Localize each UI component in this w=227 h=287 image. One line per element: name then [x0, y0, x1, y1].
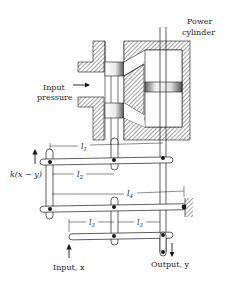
l1-label: l1 [81, 142, 87, 152]
pin-joints [48, 156, 165, 238]
power-cylinder-label-1: Power [187, 17, 212, 26]
input-x-label: Input, x [53, 263, 85, 272]
dimension-l4 [52, 186, 184, 197]
valve-stem-link [111, 138, 118, 170]
bottom-lever [69, 232, 173, 240]
l4-label: l4 [127, 189, 134, 199]
output-pivot [161, 250, 165, 254]
input-pressure-label-1: Input [43, 83, 66, 92]
fixed-ground-pivot [182, 198, 193, 217]
power-piston [145, 82, 182, 92]
servo-diagram: Power cylinder Input pressure k(x − y) l… [0, 0, 227, 287]
valve-spool [105, 62, 124, 145]
l3-left-label: l3 [89, 218, 96, 228]
output-y-label: Output, y [151, 260, 190, 269]
valve-body [78, 41, 124, 140]
l3-right-label: l3 [137, 218, 144, 228]
input-pressure-label-2: pressure [37, 93, 73, 102]
dimension-l1 [50, 143, 163, 150]
top-lever [40, 157, 173, 165]
power-cylinder-label-2: cylinder [182, 28, 215, 37]
feedback-force-label: k(x − y) [10, 170, 42, 179]
l2-label: l2 [77, 170, 84, 180]
